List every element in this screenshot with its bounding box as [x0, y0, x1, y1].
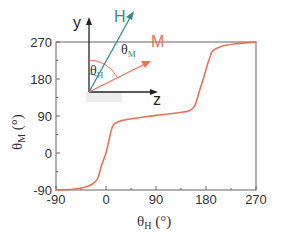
- inset-diagram: y z H M θH θM: [73, 8, 164, 108]
- inset-y-arrowhead-icon: [86, 17, 92, 25]
- x-tick-label: 180: [195, 192, 217, 207]
- y-axis-title: θM (°): [9, 114, 27, 150]
- y-axis-tick-labels: 270 180 90 0 -90: [30, 35, 52, 198]
- inset-h-arrowhead-icon: [126, 11, 134, 20]
- inset-h-label: H: [114, 8, 126, 25]
- y-tick-label: 180: [30, 72, 52, 87]
- chart: -90 0 90 180 270 270 180 90 0 -90 θH (°)…: [0, 0, 281, 242]
- x-tick-label: 270: [245, 192, 267, 207]
- inset-z-label: z: [153, 91, 161, 108]
- inset-m-arrowhead-icon: [141, 61, 151, 68]
- inset-theta-m-label: θM: [121, 42, 136, 59]
- y-tick-label: 90: [38, 109, 52, 124]
- x-axis-title: θH (°): [137, 213, 171, 231]
- y-tick-label: 270: [30, 35, 52, 50]
- inset-theta-h-label: θH: [90, 63, 104, 80]
- inset-origin-shade: [86, 92, 122, 102]
- inset-m-label: M: [151, 33, 164, 50]
- x-tick-label: 0: [102, 192, 109, 207]
- y-axis-ticks: [56, 42, 60, 172]
- inset-y-label: y: [73, 14, 81, 31]
- x-axis-tick-labels: -90 0 90 180 270: [47, 192, 267, 207]
- x-tick-label: 90: [149, 192, 163, 207]
- y-tick-label: 0: [45, 146, 52, 161]
- data-curve: [56, 42, 256, 190]
- y-tick-label: -90: [33, 183, 52, 198]
